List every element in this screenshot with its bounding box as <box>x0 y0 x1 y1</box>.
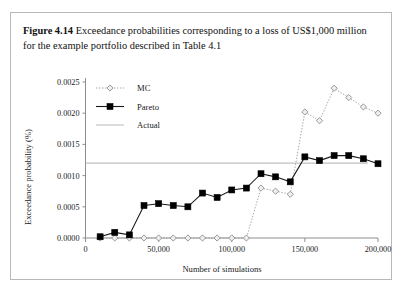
figure-caption-text: Exceedance probabilities corresponding t… <box>23 25 367 51</box>
figure-caption-label: Figure 4.14 <box>23 25 73 36</box>
figure-frame: Figure 4.14 Exceedance probabilities cor… <box>10 12 392 280</box>
figure-caption: Figure 4.14 Exceedance probabilities cor… <box>23 23 375 53</box>
